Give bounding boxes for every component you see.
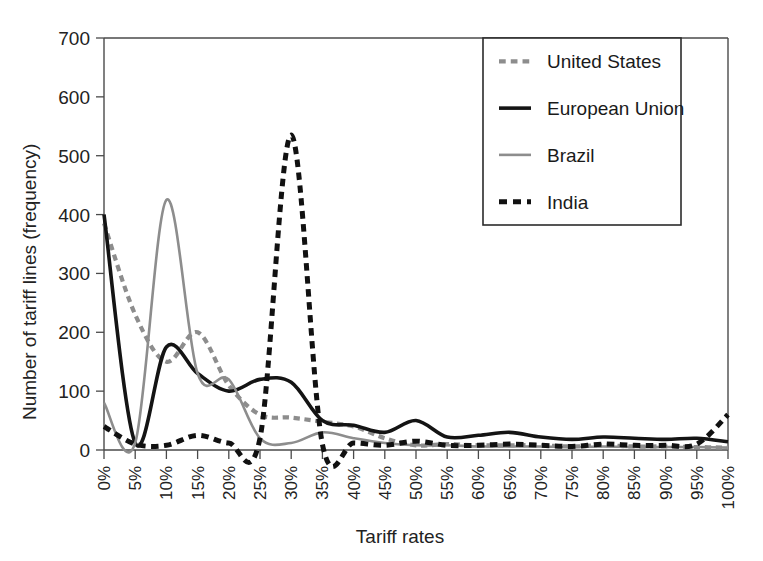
x-tick-label: 15% (189, 466, 208, 500)
x-tick-label: 40% (345, 466, 364, 500)
x-tick-label: 80% (594, 466, 613, 500)
x-tick-label: 65% (501, 466, 520, 500)
y-tick-label: 500 (58, 146, 90, 167)
y-tick-label: 700 (58, 28, 90, 49)
x-tick-label: 85% (625, 466, 644, 500)
x-tick-label: 10% (157, 466, 176, 500)
x-tick-label: 45% (376, 466, 395, 500)
x-tick-label: 90% (657, 466, 676, 500)
y-axis-title: Number of tariff lines (frequency) (19, 144, 40, 420)
x-tick-label: 35% (313, 466, 332, 500)
legend-label-united-states: United States (547, 51, 661, 72)
x-tick-label: 5% (126, 466, 145, 491)
y-axis-ticks: 0100200300400500600700 (58, 28, 104, 461)
legend-label-india: India (547, 192, 589, 213)
x-tick-label: 25% (251, 466, 270, 500)
legend-label-brazil: Brazil (547, 145, 595, 166)
x-tick-label: 55% (438, 466, 457, 500)
x-tick-label: 30% (282, 466, 301, 500)
tariff-frequency-chart: Number of tariff lines (frequency) Tarif… (0, 0, 763, 561)
series-line-united-states (104, 223, 728, 447)
y-tick-label: 0 (79, 440, 90, 461)
x-axis-ticks: 0%5%10%15%20%25%30%35%40%45%50%55%60%65%… (95, 450, 738, 509)
y-tick-label: 100 (58, 381, 90, 402)
y-tick-label: 400 (58, 205, 90, 226)
x-tick-label: 70% (532, 466, 551, 500)
x-tick-label: 60% (469, 466, 488, 500)
x-tick-label: 100% (719, 466, 738, 509)
x-axis-title: Tariff rates (356, 526, 444, 547)
x-tick-label: 75% (563, 466, 582, 500)
x-tick-label: 0% (95, 466, 114, 491)
y-tick-label: 200 (58, 322, 90, 343)
chart-legend: United StatesEuropean UnionBrazilIndia (483, 38, 684, 225)
x-tick-label: 95% (688, 466, 707, 500)
y-tick-label: 300 (58, 263, 90, 284)
y-tick-label: 600 (58, 87, 90, 108)
legend-label-european-union: European Union (547, 98, 684, 119)
series-line-brazil (104, 199, 728, 452)
chart-canvas: Number of tariff lines (frequency) Tarif… (0, 0, 763, 561)
x-tick-label: 20% (220, 466, 239, 500)
x-tick-label: 50% (407, 466, 426, 500)
